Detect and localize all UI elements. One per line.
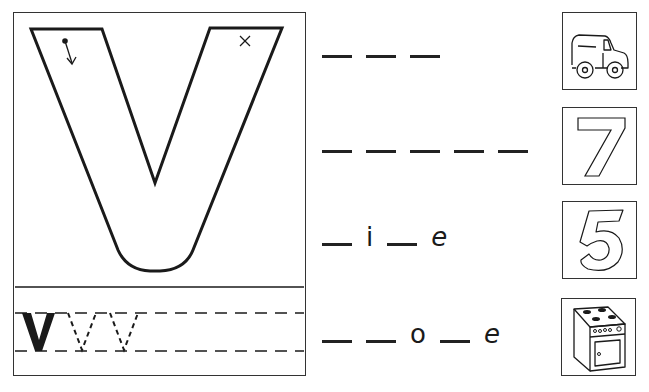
seven-icon [563, 108, 635, 183]
picture-box-stove [561, 298, 636, 376]
word-row-five: i e [322, 212, 461, 252]
traceable-letter-v-2 [110, 313, 138, 350]
picture-box-seven [562, 107, 637, 185]
letter-v-tracing-area [0, 0, 320, 392]
model-letter-v [22, 313, 55, 351]
given-letter: i [366, 222, 373, 252]
letter-blank[interactable] [498, 150, 528, 153]
five-icon [563, 202, 635, 277]
picture-box-five [562, 201, 637, 279]
van-icon [563, 13, 635, 88]
end-x-icon [240, 36, 250, 46]
word-row-van [322, 24, 454, 64]
picture-box-van [562, 12, 637, 90]
letter-blank[interactable] [366, 55, 396, 58]
letter-blank[interactable] [366, 340, 396, 343]
letter-blank[interactable] [322, 55, 352, 58]
letter-blank[interactable] [322, 243, 352, 246]
start-arrow-icon [62, 38, 76, 64]
letter-blank[interactable] [387, 243, 417, 246]
traceable-letter-v-1 [68, 313, 96, 350]
letter-blank[interactable] [366, 150, 396, 153]
letter-blank[interactable] [440, 340, 470, 343]
word-row-seven [322, 119, 542, 159]
given-letter: o [410, 319, 426, 349]
letter-blank[interactable] [410, 55, 440, 58]
letter-blank[interactable] [322, 150, 352, 153]
word-row-stove: o e [322, 309, 514, 349]
letter-blank[interactable] [410, 150, 440, 153]
letter-blank[interactable] [322, 340, 352, 343]
stove-icon [562, 299, 634, 374]
letter-v-outline [31, 28, 282, 271]
given-letter: e [484, 319, 500, 349]
letter-blank[interactable] [454, 150, 484, 153]
given-letter: e [431, 222, 447, 252]
